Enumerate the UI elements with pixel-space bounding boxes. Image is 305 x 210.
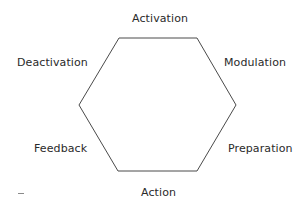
footnote-dash-mark [18,193,24,194]
hexagon-cycle-diagram: Activation Modulation Preparation Action… [0,0,305,210]
label-action: Action [141,186,176,199]
label-preparation: Preparation [228,142,293,155]
label-activation: Activation [132,12,188,25]
label-deactivation: Deactivation [17,56,88,69]
label-modulation: Modulation [224,56,286,69]
hexagon-outline [79,38,236,171]
hexagon-shape [0,0,305,210]
label-feedback: Feedback [34,142,87,155]
